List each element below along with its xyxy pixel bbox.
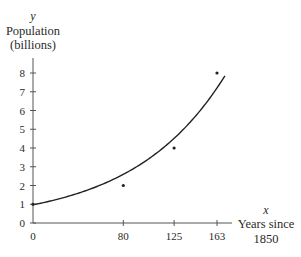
x-tick-label: 163	[209, 230, 226, 242]
data-points	[31, 71, 218, 205]
x-tick-label: 0	[30, 230, 36, 242]
x-variable-label: x	[262, 203, 269, 217]
y-tick-label: 4	[20, 142, 26, 154]
x-tick-label: 125	[166, 230, 183, 242]
y-tick-label: 2	[20, 180, 26, 192]
x-axis-title-line-1: Years since	[238, 217, 295, 231]
y-tick-label: 8	[20, 67, 26, 79]
y-tick-label: 3	[20, 161, 26, 173]
data-point	[215, 71, 218, 74]
x-axis-title-line-2: 1850	[254, 232, 279, 246]
chart: y Population (billions) x Years since 18…	[0, 0, 301, 257]
y-axis-title-line-1: Population	[6, 24, 61, 38]
data-point	[122, 184, 125, 187]
data-point	[31, 203, 34, 206]
y-tick-label: 5	[20, 123, 26, 135]
x-axis-title: x Years since 1850	[238, 203, 295, 246]
fit-curve	[33, 76, 225, 205]
y-tick-label: 7	[20, 86, 26, 98]
x-tick-label: 80	[118, 230, 130, 242]
y-tick-label: 6	[20, 105, 26, 117]
y-axis-title: y Population (billions)	[6, 9, 61, 52]
y-tick-label: 0	[20, 217, 26, 229]
data-point	[173, 146, 176, 149]
y-variable-label: y	[29, 9, 36, 23]
y-tick-label: 1	[20, 198, 26, 210]
y-axis-title-line-2: (billions)	[10, 38, 56, 52]
